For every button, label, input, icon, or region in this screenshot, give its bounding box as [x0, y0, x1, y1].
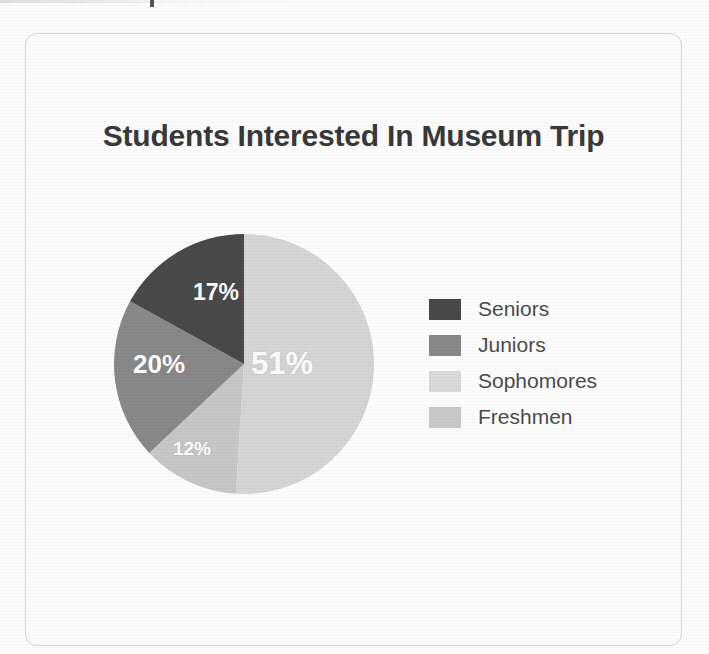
chart-legend: Seniors Juniors Sophomores Freshmen: [429, 291, 639, 435]
scan-smudge-artifact: [0, 0, 420, 3]
scan-speck-artifact: [150, 0, 154, 7]
legend-label-sophomores: Sophomores: [478, 369, 597, 393]
legend-swatch-icon-juniors: [429, 335, 461, 356]
legend-label-juniors: Juniors: [478, 333, 546, 357]
legend-item-seniors: Seniors: [429, 291, 639, 327]
legend-label-seniors: Seniors: [478, 297, 549, 321]
legend-item-freshmen: Freshmen: [429, 399, 639, 435]
pie-slice-label-freshmen: 12%: [173, 438, 211, 460]
chart-card: Students Interested In Museum Trip 51% 1…: [25, 33, 682, 646]
legend-swatch-icon-seniors: [429, 299, 461, 320]
pie-slice-label-sophomores: 51%: [251, 346, 313, 382]
chart-title: Students Interested In Museum Trip: [26, 119, 681, 153]
pie-slice-label-seniors: 17%: [193, 279, 239, 306]
legend-swatch-icon-freshmen: [429, 407, 461, 428]
legend-label-freshmen: Freshmen: [478, 405, 573, 429]
legend-item-sophomores: Sophomores: [429, 363, 639, 399]
legend-item-juniors: Juniors: [429, 327, 639, 363]
pie-chart: 51% 12% 20% 17%: [114, 234, 374, 494]
pie-slice-label-juniors: 20%: [133, 349, 185, 380]
legend-swatch-icon-sophomores: [429, 371, 461, 392]
